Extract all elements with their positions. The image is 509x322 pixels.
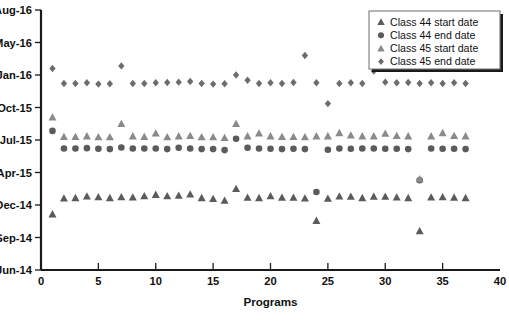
data-point — [106, 133, 114, 140]
data-point — [164, 79, 170, 86]
legend-label-0: Class 44 start date — [390, 16, 478, 28]
data-point — [233, 71, 239, 78]
data-point — [370, 193, 378, 200]
data-point — [462, 194, 470, 201]
data-point — [186, 190, 194, 197]
data-point — [382, 78, 388, 85]
data-point — [186, 132, 194, 139]
data-point — [72, 80, 78, 87]
data-point — [393, 132, 401, 139]
data-point — [427, 193, 435, 200]
data-point — [49, 65, 55, 72]
data-point — [175, 132, 183, 139]
data-point — [450, 194, 458, 201]
data-point — [381, 193, 389, 200]
data-point — [267, 132, 275, 139]
data-point — [106, 194, 114, 201]
data-point — [301, 133, 309, 140]
data-point — [221, 196, 229, 203]
data-point — [451, 79, 457, 86]
data-point — [325, 100, 331, 107]
data-point — [198, 194, 206, 201]
data-point — [359, 80, 365, 87]
y-tick-label-7: May-16 — [0, 37, 32, 49]
data-point — [428, 145, 435, 152]
data-point — [118, 62, 124, 69]
x-tick-label-4: 20 — [264, 275, 276, 287]
data-point — [324, 195, 332, 202]
data-point — [312, 217, 320, 224]
data-point — [324, 132, 332, 139]
data-point — [404, 194, 412, 201]
data-point — [130, 145, 137, 152]
legend-label-2: Class 45 start date — [390, 42, 478, 54]
data-point — [83, 132, 91, 139]
data-point — [199, 80, 205, 87]
x-tick-label-7: 35 — [436, 275, 448, 287]
data-point — [393, 145, 400, 152]
data-point — [94, 133, 102, 140]
data-point — [347, 193, 355, 200]
data-point — [405, 146, 412, 153]
data-point — [232, 185, 240, 192]
data-point — [450, 132, 458, 139]
y-tick-label-5: Oct-15 — [0, 102, 32, 114]
data-point — [267, 145, 274, 152]
data-point — [221, 147, 228, 154]
data-point — [290, 145, 297, 152]
data-point — [153, 79, 159, 86]
data-point — [141, 145, 148, 152]
data-point — [198, 146, 205, 153]
data-point — [129, 193, 137, 200]
data-point — [439, 129, 447, 136]
scatter-chart: Jun-14Sep-14Dec-14Apr-15Jul-15Oct-15Jan-… — [0, 0, 509, 322]
data-point — [95, 80, 101, 87]
data-point — [336, 80, 342, 87]
data-point — [325, 146, 332, 153]
data-point — [84, 145, 91, 152]
data-point — [462, 80, 468, 87]
data-point — [60, 133, 68, 140]
data-point — [175, 192, 183, 199]
data-point — [209, 133, 217, 140]
data-point — [187, 78, 193, 85]
data-point — [71, 133, 79, 140]
data-point — [210, 146, 217, 153]
data-point — [152, 129, 160, 136]
data-point — [290, 79, 296, 86]
data-point — [232, 120, 240, 127]
legend-label-3: Class 45 end date — [390, 55, 476, 67]
data-point — [370, 132, 378, 139]
data-point — [267, 192, 275, 199]
data-point — [256, 145, 263, 152]
data-point — [427, 132, 435, 139]
data-point — [451, 145, 458, 152]
data-point — [255, 194, 263, 201]
data-point — [187, 145, 194, 152]
data-point — [347, 131, 355, 138]
data-point — [95, 145, 102, 152]
data-point — [394, 79, 400, 86]
data-point — [439, 193, 447, 200]
data-point — [301, 194, 309, 201]
data-point — [61, 145, 68, 152]
x-tick-label-5: 25 — [322, 275, 334, 287]
data-point — [140, 192, 148, 199]
y-tick-label-6: Jan-16 — [0, 69, 32, 81]
legend-marker-1 — [378, 32, 384, 38]
data-point — [107, 80, 113, 87]
y-tick-label-0: Jun-14 — [0, 264, 33, 276]
data-point — [129, 132, 137, 139]
data-point — [233, 135, 240, 142]
y-tick-label-1: Sep-14 — [0, 232, 33, 244]
data-point — [302, 146, 309, 153]
data-point — [48, 210, 56, 217]
data-point — [336, 145, 343, 152]
data-point — [439, 145, 446, 152]
data-point — [118, 144, 125, 151]
data-point — [117, 193, 125, 200]
data-point — [279, 80, 285, 87]
data-point — [312, 132, 320, 139]
data-point — [221, 80, 227, 87]
data-point — [278, 133, 286, 140]
